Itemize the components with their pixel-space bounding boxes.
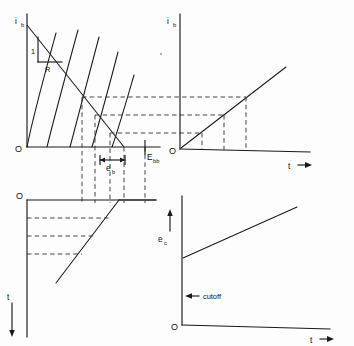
tr-x-axis [180, 149, 310, 152]
tl-swing-label-sub: b [112, 169, 115, 175]
br-y-axis-label-sub: c [164, 240, 167, 246]
tr-t-arrowhead [305, 162, 312, 168]
quadrant-bottom-right [167, 196, 334, 342]
bl-voltage-ramp [56, 200, 119, 283]
br-y-axis-label: e [158, 235, 163, 244]
bl-origin-label: O [16, 191, 23, 201]
four-quadrant-figure: i b 1 R O E bb e b i b O t O t e c cutof… [0, 0, 354, 346]
tl-origin-label: O [15, 144, 22, 154]
tl-swing-label: e [106, 164, 111, 173]
br-x-axis [182, 325, 330, 329]
bl-y-axis-label: t [7, 293, 10, 302]
br-x-axis-label: t [310, 336, 313, 345]
br-cutoff-label: cutoff [203, 292, 222, 301]
tr-x-axis-label: t [288, 162, 291, 171]
tl-y-axis-label: i [15, 17, 17, 26]
br-origin-label: O [171, 322, 178, 332]
tr-origin-label: O [169, 146, 176, 156]
br-t-arrowhead [327, 336, 334, 342]
tr-y-axis-label: i [167, 17, 169, 26]
figure-page: i b 1 R O E bb e b i b O t O t e c cutof… [0, 0, 354, 346]
quadrant-top-left [27, 14, 246, 203]
tl-x-axis-label-sub: bb [153, 158, 159, 164]
tr-current-trace [181, 67, 286, 148]
tl-slope-run-label: R [45, 65, 50, 74]
tr-y-axis-label-sub: b [173, 22, 176, 28]
br-cutoff-arrowhead [185, 293, 192, 299]
quadrant-top-right [180, 14, 312, 168]
tl-slope-rise-label: 1 [31, 47, 35, 56]
br-ec-arrowhead [167, 209, 172, 216]
tl-eb-arrow-left [100, 157, 105, 162]
bl-t-arrowhead [9, 330, 15, 337]
br-grid-trace [183, 207, 297, 258]
scan-speck [160, 53, 162, 55]
tl-y-axis-label-sub: b [21, 22, 24, 28]
quadrant-bottom-left [9, 200, 156, 337]
